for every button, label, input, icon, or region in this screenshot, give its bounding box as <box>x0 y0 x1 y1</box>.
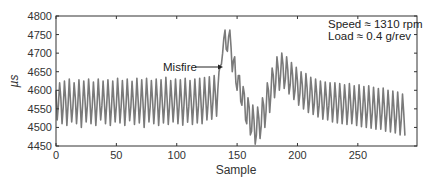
misfire-annotation: Misfire <box>163 61 197 73</box>
y-tick-label: 4700 <box>28 47 52 59</box>
y-tick-label: 4650 <box>28 66 52 78</box>
y-tick-label: 4600 <box>28 84 52 96</box>
line-chart: 44504500455046004650470047504800 0501001… <box>0 0 431 187</box>
y-tick-label: 4550 <box>28 103 52 115</box>
y-tick-label: 4450 <box>28 140 52 152</box>
load-annotation: Load ≈ 0.4 g/rev <box>328 30 411 42</box>
x-tick-label: 200 <box>288 149 306 161</box>
signal-line <box>56 30 405 144</box>
x-axis-title: Sample <box>216 163 257 177</box>
x-tick-label: 250 <box>349 149 367 161</box>
y-tick-label: 4750 <box>28 29 52 41</box>
x-tick-label: 150 <box>228 149 246 161</box>
x-tick-label: 0 <box>53 149 59 161</box>
speed-annotation: Speed ≈ 1310 rpm <box>328 18 423 30</box>
y-tick-label: 4800 <box>28 10 52 22</box>
y-tick-label: 4500 <box>28 121 52 133</box>
x-tick-label: 100 <box>168 149 186 161</box>
x-tick-label: 50 <box>110 149 122 161</box>
series-line <box>56 30 405 144</box>
misfire-arrow <box>195 65 223 70</box>
y-axis-title: µs <box>7 75 21 88</box>
